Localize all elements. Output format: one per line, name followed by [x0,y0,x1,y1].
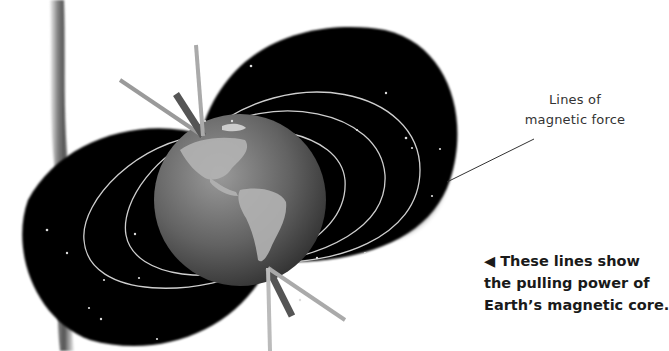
earth-globe [154,114,326,286]
south-pole-rays [268,268,345,351]
caption-line-3: Earth’s magnetic core. [484,294,654,316]
caption-line-1: ◀ These lines show [484,250,654,272]
lines-of-force-label: Lines of magnetic force [500,90,650,130]
left-arrow-icon: ◀ [484,253,495,269]
leader-line [447,139,534,182]
caption: ◀ These lines show the pulling power of … [484,250,654,316]
label-line-2: magnetic force [500,110,650,130]
label-line-1: Lines of [500,90,650,110]
caption-line-2: the pulling power of [484,272,654,294]
north-pole-rays [120,45,203,136]
